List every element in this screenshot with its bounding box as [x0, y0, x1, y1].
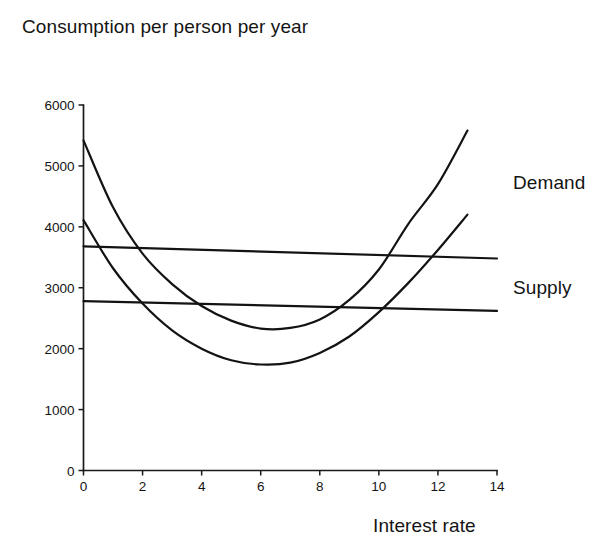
y-tick-label: 4000 [44, 220, 74, 235]
x-tick-label: 8 [316, 479, 324, 494]
series-label-supply: Supply [513, 277, 572, 299]
y-tick-label: 1000 [44, 403, 74, 418]
x-tick-label: 14 [489, 479, 505, 494]
series-line-supply [84, 215, 468, 365]
x-tick-label: 6 [257, 479, 265, 494]
y-tick-label: 0 [67, 464, 75, 479]
x-tick-label: 2 [139, 479, 147, 494]
y-axis-ticks: 0100020003000400050006000 [44, 98, 83, 479]
x-axis-title: Interest rate [373, 515, 476, 537]
y-tick-label: 5000 [44, 159, 74, 174]
x-axis-ticks: 02468101214 [80, 471, 505, 494]
y-tick-label: 2000 [44, 342, 74, 357]
x-tick-label: 0 [80, 479, 88, 494]
series-line-demand [84, 131, 468, 330]
chart-series-group [84, 131, 498, 365]
chart-container: Consumption per person per year 01000200… [0, 0, 608, 557]
chart-axes [84, 105, 498, 471]
series-label-demand: Demand [513, 172, 585, 194]
x-tick-label: 10 [371, 479, 386, 494]
x-tick-label: 12 [430, 479, 445, 494]
y-tick-label: 3000 [44, 281, 74, 296]
y-tick-label: 6000 [44, 98, 74, 113]
x-tick-label: 4 [198, 479, 206, 494]
